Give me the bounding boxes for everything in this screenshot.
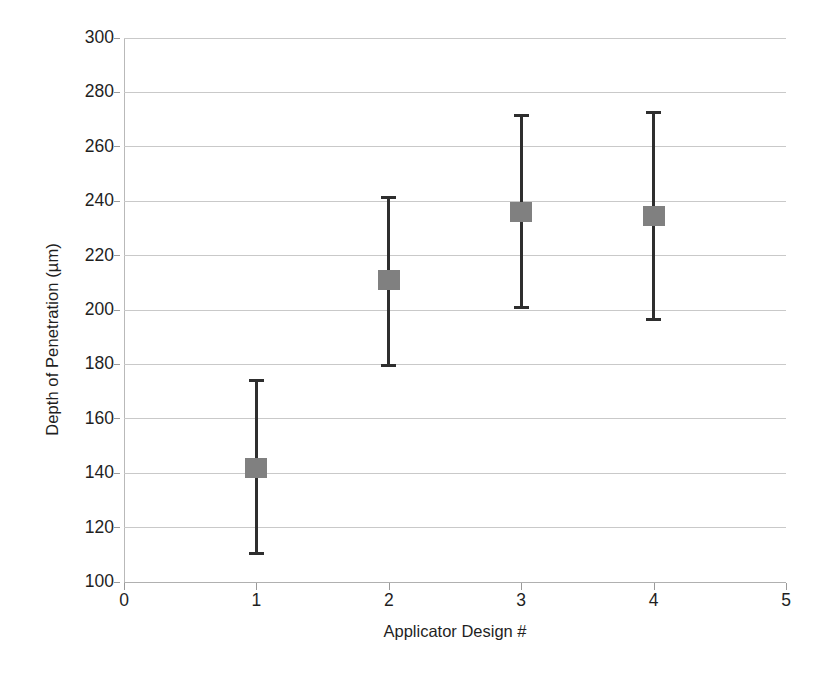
error-bar-cap-upper [514, 114, 529, 117]
y-axis-tick-label: 300 [56, 29, 114, 47]
x-axis-tick-label: 3 [501, 592, 541, 610]
x-axis-tick-label: 1 [236, 592, 276, 610]
error-bar-cap-lower [646, 318, 661, 321]
y-axis-tick-mark [114, 364, 120, 365]
data-point-marker[interactable] [510, 202, 532, 222]
y-axis-tick-mark [114, 418, 120, 419]
y-axis-tick-mark [114, 38, 120, 39]
error-bar-cap-upper [249, 379, 264, 382]
error-bar-cap-lower [249, 552, 264, 555]
gridline [124, 38, 786, 39]
y-axis-tick-label: 140 [56, 464, 114, 482]
y-axis-tick-mark [114, 255, 120, 256]
x-axis-tick-label: 0 [104, 592, 144, 610]
y-axis-tick-label: 280 [56, 83, 114, 101]
y-axis-tick-mark [114, 527, 120, 528]
gridline [124, 255, 786, 256]
data-point-marker[interactable] [643, 206, 665, 226]
error-bar-cap-upper [381, 196, 396, 199]
gridline [124, 146, 786, 147]
x-axis-title: Applicator Design # [124, 622, 786, 641]
y-axis-tick-label: 180 [56, 355, 114, 373]
gridline [124, 310, 786, 311]
gridline [124, 527, 786, 528]
x-axis-tick-marks [124, 583, 786, 591]
x-axis-tick-mark [654, 583, 655, 590]
y-axis-tick-mark [114, 473, 120, 474]
y-axis-tick-labels: 100120140160180200220240260280300 [52, 38, 114, 582]
gridline [124, 201, 786, 202]
gridline [124, 364, 786, 365]
y-axis-tick-label: 260 [56, 138, 114, 156]
x-axis-tick-label: 2 [369, 592, 409, 610]
chart-figure: Depth of Penetration (µm) 10012014016018… [0, 0, 822, 679]
gridline [124, 418, 786, 419]
x-axis-tick-label: 5 [766, 592, 806, 610]
y-axis-tick-label: 120 [56, 519, 114, 537]
x-axis-tick-label: 4 [634, 592, 674, 610]
y-axis-tick-label: 240 [56, 192, 114, 210]
plot-area [124, 38, 786, 582]
y-axis-tick-mark [114, 92, 120, 93]
x-axis-tick-mark [256, 583, 257, 590]
x-axis-tick-labels: 012345 [124, 592, 786, 618]
y-axis-tick-label: 160 [56, 410, 114, 428]
y-axis-tick-mark [114, 146, 120, 147]
y-axis-tick-mark [114, 582, 120, 583]
x-axis-tick-mark [389, 583, 390, 590]
y-axis-tick-label: 220 [56, 247, 114, 265]
y-axis-tick-mark [114, 201, 120, 202]
data-point-marker[interactable] [245, 458, 267, 478]
gridline [124, 92, 786, 93]
x-axis-tick-mark [124, 583, 125, 590]
error-bar-cap-upper [646, 111, 661, 114]
x-axis-tick-mark [786, 583, 787, 590]
error-bar-cap-lower [381, 364, 396, 367]
y-axis-tick-label: 200 [56, 301, 114, 319]
gridline [124, 473, 786, 474]
y-axis-tick-mark [114, 310, 120, 311]
error-bar-cap-lower [514, 306, 529, 309]
data-point-marker[interactable] [378, 270, 400, 290]
y-axis-tick-label: 100 [56, 573, 114, 591]
x-axis-tick-mark [521, 583, 522, 590]
